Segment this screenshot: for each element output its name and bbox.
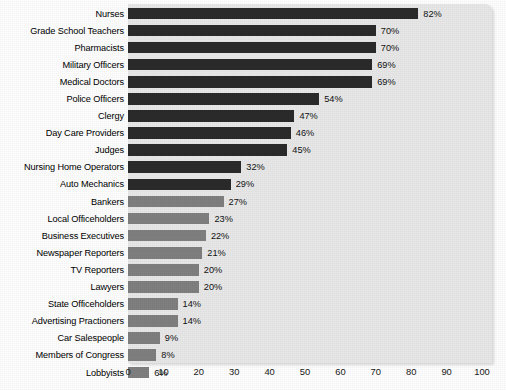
bar-value-label: 9% <box>165 333 178 343</box>
bar-track: 22% <box>128 227 506 244</box>
bar-value-label: 14% <box>183 316 201 326</box>
bar-value-label: 54% <box>324 94 342 104</box>
category-label: TV Reporters <box>71 265 124 275</box>
bar-row: Clergy47% <box>0 108 506 125</box>
bar <box>128 161 241 173</box>
bar <box>128 127 291 139</box>
x-axis: 0102030405060708090100 <box>0 366 506 390</box>
bar-value-label: 82% <box>423 9 441 19</box>
bar-row: Lawyers20% <box>0 279 506 296</box>
bar-row: Pharmacists70% <box>0 39 506 56</box>
x-axis-tick-label: 100 <box>474 366 490 377</box>
bar <box>128 59 372 71</box>
bar-value-label: 32% <box>246 162 264 172</box>
bar-value-label: 69% <box>377 60 395 70</box>
bar-track: 69% <box>128 73 506 90</box>
bar-value-label: 20% <box>204 282 222 292</box>
bar-track: 14% <box>128 313 506 330</box>
category-label: Medical Doctors <box>60 77 124 87</box>
bar-track: 70% <box>128 22 506 39</box>
bar-row: Grade School Teachers70% <box>0 22 506 39</box>
bar <box>128 264 199 276</box>
bar-track: 45% <box>128 142 506 159</box>
x-axis-tick-label: 0 <box>125 366 130 377</box>
bar <box>128 315 178 327</box>
bar-track: 20% <box>128 279 506 296</box>
category-label: Members of Congress <box>36 350 124 360</box>
category-label: Nursing Home Operators <box>24 162 124 172</box>
category-label: Nurses <box>95 9 124 19</box>
x-axis-tick-label: 10 <box>158 366 168 377</box>
bar <box>128 349 156 361</box>
category-label: Clergy <box>98 111 124 121</box>
bar-row: Day Care Providers46% <box>0 125 506 142</box>
bar-value-label: 45% <box>292 145 310 155</box>
bar <box>128 42 376 54</box>
x-axis-tick-label: 40 <box>264 366 274 377</box>
bar <box>128 298 178 310</box>
bar-rows: Nurses82%Grade School Teachers70%Pharmac… <box>0 5 506 362</box>
bar-track: 32% <box>128 159 506 176</box>
x-axis-tick-label: 60 <box>335 366 345 377</box>
bar-row: Business Executives22% <box>0 227 506 244</box>
x-axis-tick-label: 30 <box>229 366 239 377</box>
bar-track: 46% <box>128 125 506 142</box>
bar-track: 8% <box>128 347 506 364</box>
category-label: Military Officers <box>63 60 124 70</box>
bar-row: State Officeholders14% <box>0 296 506 313</box>
bar-row: TV Reporters20% <box>0 261 506 278</box>
bar-row: Bankers27% <box>0 193 506 210</box>
bar <box>128 144 287 156</box>
bar-value-label: 21% <box>207 248 225 258</box>
bar-row: Judges45% <box>0 142 506 159</box>
bar-value-label: 70% <box>381 26 399 36</box>
bar-value-label: 22% <box>211 231 229 241</box>
bar-track: 9% <box>128 330 506 347</box>
x-axis-tick-label: 70 <box>371 366 381 377</box>
bar-row: Nurses82% <box>0 5 506 22</box>
category-label: Business Executives <box>42 231 124 241</box>
bar-row: Car Salespeople9% <box>0 330 506 347</box>
bar-track: 23% <box>128 210 506 227</box>
bar-track: 29% <box>128 176 506 193</box>
category-label: Local Officeholders <box>47 214 124 224</box>
bar-value-label: 69% <box>377 77 395 87</box>
bar <box>128 93 319 105</box>
category-label: Police Officers <box>66 94 124 104</box>
category-label: Day Care Providers <box>46 128 124 138</box>
category-label: Judges <box>95 145 124 155</box>
bar <box>128 247 202 259</box>
bar-row: Nursing Home Operators32% <box>0 159 506 176</box>
bar-value-label: 70% <box>381 43 399 53</box>
horizontal-bar-chart: Nurses82%Grade School Teachers70%Pharmac… <box>0 0 506 390</box>
category-label: Grade School Teachers <box>30 26 124 36</box>
bar-row: Medical Doctors69% <box>0 73 506 90</box>
x-axis-tick-label: 50 <box>300 366 310 377</box>
bar-track: 14% <box>128 296 506 313</box>
x-axis-tick-label: 90 <box>441 366 451 377</box>
bar-value-label: 14% <box>183 299 201 309</box>
bar-row: Newspaper Reporters21% <box>0 244 506 261</box>
bar <box>128 230 206 242</box>
category-label: Advertising Practioners <box>32 316 124 326</box>
category-label: Bankers <box>91 197 124 207</box>
category-label: State Officeholders <box>48 299 124 309</box>
bar <box>128 25 376 37</box>
x-axis-tick-label: 20 <box>194 366 204 377</box>
bar-track: 54% <box>128 90 506 107</box>
bar <box>128 213 209 225</box>
category-label: Newspaper Reporters <box>37 248 124 258</box>
bar <box>128 281 199 293</box>
category-label: Car Salespeople <box>58 333 124 343</box>
bar-row: Police Officers54% <box>0 90 506 107</box>
bar-value-label: 8% <box>161 350 174 360</box>
bar-track: 21% <box>128 244 506 261</box>
category-label: Auto Mechanics <box>60 179 124 189</box>
bar <box>128 196 224 208</box>
bar <box>128 8 418 20</box>
bar-value-label: 46% <box>296 128 314 138</box>
bar-track: 27% <box>128 193 506 210</box>
bar <box>128 332 160 344</box>
bar-value-label: 29% <box>236 179 254 189</box>
bar-track: 47% <box>128 108 506 125</box>
